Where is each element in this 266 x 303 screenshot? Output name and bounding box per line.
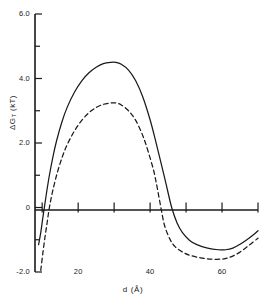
y-tick-label: 4.0 xyxy=(19,74,30,83)
y-tick-label: 6.0 xyxy=(19,9,30,18)
y-axis-title-subscript: T xyxy=(11,114,17,118)
y-tick-label: -2.0 xyxy=(16,267,30,276)
series-line-solid xyxy=(39,62,258,250)
x-ticks-group xyxy=(42,203,258,213)
y-axis-title-units: (kT) xyxy=(8,95,17,113)
y-axis-title-main: ΔG xyxy=(8,118,17,130)
x-tick-label: 40 xyxy=(130,267,170,276)
x-axis-title: d (Å) xyxy=(0,285,266,294)
y-axis-title: ΔGT (kT) xyxy=(8,73,17,153)
series-line-dashed xyxy=(41,103,258,271)
plot-canvas xyxy=(0,0,266,303)
data-series-group xyxy=(39,62,258,270)
y-tick-label: 0 xyxy=(26,203,30,212)
x-tick-label: 60 xyxy=(202,267,242,276)
y-tick-label: 2.0 xyxy=(19,138,30,147)
figure-chart-delta-g-vs-d: -2.002.04.06.0 204060 d (Å) ΔGT (kT) xyxy=(0,0,266,303)
x-tick-label: 20 xyxy=(58,267,98,276)
